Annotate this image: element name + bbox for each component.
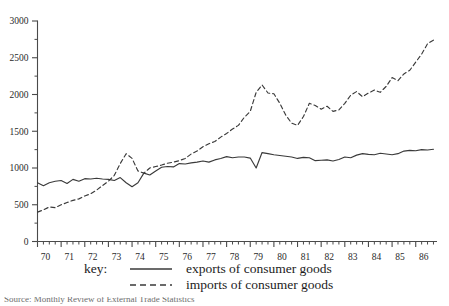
series-line-imports bbox=[38, 40, 434, 212]
x-tick-label: 74 bbox=[135, 252, 145, 262]
x-tick-label: 79 bbox=[254, 252, 264, 262]
x-tick-label: 85 bbox=[395, 252, 405, 262]
x-tick-label: 73 bbox=[112, 252, 122, 262]
x-tick-label: 70 bbox=[41, 252, 51, 262]
consumer-goods-trade-chart: 0500100015002000250030007071727374757677… bbox=[0, 0, 449, 306]
x-tick-label: 75 bbox=[159, 252, 169, 262]
x-tick-label: 71 bbox=[64, 252, 74, 262]
x-tick-label: 86 bbox=[419, 252, 429, 262]
x-tick-label: 72 bbox=[88, 252, 98, 262]
chart-legend: key: exports of consumer goods imports o… bbox=[84, 261, 414, 295]
y-tick-label: 1000 bbox=[10, 163, 29, 173]
legend-row-exports: key: exports of consumer goods bbox=[84, 261, 414, 277]
legend-solid-line-icon bbox=[128, 263, 174, 275]
source-caption: Source: Monthly Review of External Trade… bbox=[4, 297, 324, 306]
x-tick-label: 83 bbox=[348, 252, 358, 262]
source-caption-text: Source: Monthly Review of External Trade… bbox=[4, 297, 324, 304]
x-tick-label: 78 bbox=[230, 252, 240, 262]
x-tick-label: 81 bbox=[301, 252, 311, 262]
y-tick-label: 3000 bbox=[10, 16, 29, 26]
legend-key-label: key: bbox=[84, 261, 128, 277]
x-tick-label: 84 bbox=[372, 252, 382, 262]
x-tick-label: 77 bbox=[206, 252, 216, 262]
series-line-exports bbox=[38, 149, 434, 186]
y-tick-label: 2000 bbox=[10, 90, 29, 100]
y-tick-label: 500 bbox=[14, 200, 29, 210]
x-tick-label: 76 bbox=[183, 252, 193, 262]
y-tick-label: 1500 bbox=[10, 127, 29, 137]
legend-label-exports: exports of consumer goods bbox=[186, 261, 332, 277]
legend-row-imports: imports of consumer goods bbox=[84, 277, 414, 293]
y-tick-label: 2500 bbox=[10, 53, 29, 63]
x-tick-label: 82 bbox=[324, 252, 334, 262]
x-tick-label: 80 bbox=[277, 252, 287, 262]
legend-dashed-line-icon bbox=[128, 279, 174, 291]
legend-label-imports: imports of consumer goods bbox=[186, 277, 333, 293]
y-tick-label: 0 bbox=[24, 237, 29, 247]
